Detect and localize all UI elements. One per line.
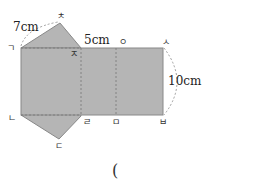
vertex-label-ch: ㅊ bbox=[57, 12, 65, 21]
answer-open-paren: ( bbox=[112, 163, 118, 179]
prism-net-diagram bbox=[0, 0, 263, 193]
vertex-label-d: ㄷ bbox=[55, 142, 63, 151]
vertex-label-m: ㅁ bbox=[112, 118, 120, 127]
vertex-label-g: ㄱ bbox=[7, 44, 15, 53]
vertex-label-r: ㄹ bbox=[83, 118, 91, 127]
dimension-label-7cm: 7cm bbox=[13, 21, 39, 33]
vertex-label-o: ㅇ bbox=[119, 38, 127, 47]
lateral-faces-rectangle bbox=[21, 48, 163, 115]
dimension-label-5cm: 5cm bbox=[84, 34, 110, 46]
dimension-label-10cm: 10cm bbox=[168, 75, 201, 87]
vertex-label-n: ㄴ bbox=[8, 114, 16, 123]
vertex-label-b: ㅂ bbox=[159, 118, 167, 127]
vertex-label-s: ㅅ bbox=[162, 38, 170, 47]
vertex-label-j: ㅈ bbox=[70, 50, 78, 59]
